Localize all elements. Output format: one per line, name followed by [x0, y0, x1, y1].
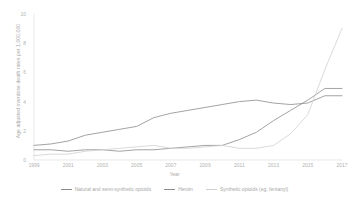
series-lines: [34, 29, 342, 156]
x-tick-label-2005: 2005: [131, 162, 142, 168]
x-tick-label-2009: 2009: [200, 162, 211, 168]
plot-svg: [34, 14, 342, 160]
legend-label-2: Synthetic opioids (eg, fentanyl): [220, 186, 288, 192]
x-tick-label-2013: 2013: [268, 162, 279, 168]
plot-area: [34, 14, 342, 160]
y-tick-label-10: 10: [20, 11, 26, 17]
legend-swatch-icon-2: [206, 189, 217, 190]
x-axis-title: Year: [0, 171, 349, 177]
legend-item-0[interactable]: Natural and semi-synthetic opioids: [61, 186, 151, 192]
legend-label-1: Heroin: [178, 186, 193, 192]
legend-item-1[interactable]: Heroin: [164, 186, 193, 192]
y-tick-label-0: 0: [23, 157, 26, 163]
chart-legend: Natural and semi-synthetic opioidsHeroin…: [0, 186, 349, 192]
legend-swatch-icon-1: [164, 189, 175, 190]
y-axis-tick-labels: 0246810: [0, 14, 30, 160]
y-tick-label-2: 2: [23, 128, 26, 134]
series-line-1: [34, 88, 342, 151]
x-tick-label-2007: 2007: [165, 162, 176, 168]
y-tick-label-4: 4: [23, 99, 26, 105]
x-tick-label-2003: 2003: [97, 162, 108, 168]
y-tick-label-8: 8: [23, 40, 26, 46]
legend-item-2[interactable]: Synthetic opioids (eg, fentanyl): [206, 186, 288, 192]
x-tick-label-2017: 2017: [336, 162, 347, 168]
x-tick-label-2015: 2015: [302, 162, 313, 168]
legend-swatch-icon-0: [61, 189, 72, 190]
x-tick-label-2001: 2001: [63, 162, 74, 168]
series-line-0: [34, 96, 342, 146]
y-tick-label-6: 6: [23, 69, 26, 75]
line-chart: Age adjusted overdose death rates per 1,…: [0, 0, 349, 202]
x-tick-label-1999: 1999: [28, 162, 39, 168]
x-tick-label-2011: 2011: [234, 162, 245, 168]
legend-label-0: Natural and semi-synthetic opioids: [75, 186, 151, 192]
